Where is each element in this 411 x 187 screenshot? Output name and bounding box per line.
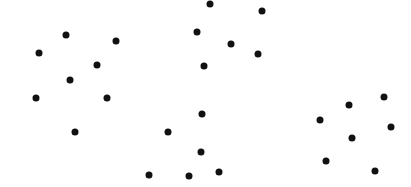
- data-point: [113, 38, 120, 45]
- data-point: [33, 95, 40, 102]
- scatter-plot: [0, 0, 411, 187]
- data-point: [198, 149, 205, 156]
- data-point: [36, 50, 43, 57]
- data-point: [259, 8, 266, 15]
- data-point: [146, 172, 153, 179]
- data-point: [372, 168, 379, 175]
- data-point: [201, 63, 208, 70]
- data-point: [255, 51, 262, 58]
- data-point: [199, 111, 206, 118]
- data-point: [349, 135, 356, 142]
- data-point: [63, 32, 70, 39]
- data-point: [94, 62, 101, 69]
- data-point: [323, 158, 330, 165]
- data-point: [388, 124, 395, 131]
- data-point: [186, 173, 193, 180]
- data-point: [194, 29, 201, 36]
- data-point: [346, 102, 353, 109]
- data-point: [228, 41, 235, 48]
- data-point: [67, 77, 74, 84]
- data-point: [207, 1, 214, 8]
- data-point: [72, 129, 79, 136]
- data-point: [317, 117, 324, 124]
- data-point: [104, 95, 111, 102]
- data-point: [381, 94, 388, 101]
- data-point: [165, 129, 172, 136]
- data-point: [216, 169, 223, 176]
